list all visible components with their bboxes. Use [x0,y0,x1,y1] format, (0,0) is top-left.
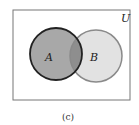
set-a-label: A [44,51,53,64]
set-b-label: B [89,51,98,64]
figure-caption: (c) [62,112,74,122]
universe-label: U [121,12,131,25]
venn-diagram: U A B (c) [0,0,139,125]
